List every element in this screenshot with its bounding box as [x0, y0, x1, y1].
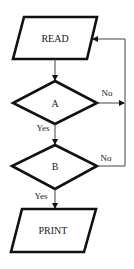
print-node: PRINT [11, 209, 96, 252]
read-node: READ [13, 17, 97, 59]
b-no-label: No [101, 153, 112, 163]
a-yes-label: Yes [36, 123, 50, 133]
flowchart: READ A No Yes B No Yes PRINT [0, 0, 134, 269]
a-label: A [51, 98, 59, 109]
read-label: READ [41, 33, 68, 44]
print-label: PRINT [39, 225, 68, 236]
decision-b: B [12, 145, 97, 189]
decision-a: A [13, 81, 97, 124]
b-yes-label: Yes [34, 191, 48, 201]
b-label: B [52, 161, 59, 172]
a-no-label: No [102, 88, 113, 98]
